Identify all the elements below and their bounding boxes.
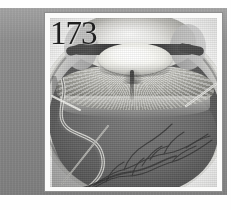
page-margin-right <box>227 0 231 210</box>
plate-number: 173 <box>50 17 97 50</box>
page-margin-top <box>0 0 231 8</box>
page-root: 173 <box>0 0 231 210</box>
page-margin-bottom <box>0 195 231 210</box>
